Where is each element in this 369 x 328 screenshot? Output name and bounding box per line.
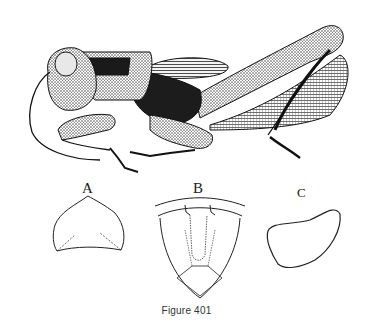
panel-a-drawing (53, 196, 124, 251)
panel-label-b: B (193, 181, 203, 196)
grasshopper-illustration (0, 0, 369, 328)
panel-label-c: C (297, 186, 306, 199)
panel-label-a: A (82, 181, 93, 196)
figure-caption: Figure 401 (0, 305, 369, 316)
grasshopper-body (48, 26, 348, 172)
figure-401: A B C Figure 401 (0, 0, 369, 328)
panel-c-drawing (267, 210, 340, 267)
panel-b-drawing (155, 198, 245, 298)
